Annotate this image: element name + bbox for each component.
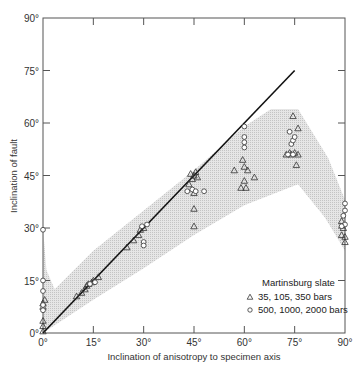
x-tick-label: 60° (237, 337, 252, 348)
x-tick-label: 0° (38, 337, 48, 348)
x-tick-label: 15° (86, 337, 101, 348)
circle-marker (248, 308, 252, 312)
y-tick-label: 90° (24, 13, 39, 24)
circle-marker (287, 129, 292, 134)
diagonal-line (43, 71, 295, 334)
circle-marker (286, 152, 291, 157)
circle-marker (141, 243, 146, 248)
circle-marker (343, 208, 348, 213)
y-tick-label: 60° (24, 118, 39, 129)
x-tick-label: 90° (337, 337, 352, 348)
circle-marker (93, 280, 98, 285)
legend-title: Martinsburg slate (262, 277, 335, 288)
circle-marker (41, 227, 46, 232)
reference-line (43, 71, 295, 334)
circle-marker (242, 145, 247, 150)
circle-marker (292, 135, 297, 140)
x-tick-label: 30° (136, 337, 151, 348)
legend-label: 500, 1000, 2000 bars (258, 304, 348, 315)
y-tick-label: 30° (24, 223, 39, 234)
x-tick-label: 75° (287, 337, 302, 348)
circle-marker (41, 289, 46, 294)
y-axis-title: Inclination of fault (8, 139, 19, 213)
circle-marker (242, 124, 247, 129)
circle-marker (41, 308, 46, 313)
circle-marker (343, 201, 348, 206)
circle-marker (341, 213, 346, 218)
circle-marker (140, 224, 145, 229)
y-tick-label: 0° (29, 328, 39, 339)
circle-marker (41, 278, 46, 283)
y-tick-label: 75° (24, 66, 39, 77)
circle-marker (88, 282, 93, 287)
y-tick-label: 45° (24, 171, 39, 182)
x-tick-label: 45° (186, 337, 201, 348)
x-axis-title: Inclination of anisotropy to specimen ax… (107, 351, 280, 362)
circle-marker (41, 303, 46, 308)
circle-marker (193, 189, 198, 194)
circle-marker (242, 140, 247, 145)
circle-marker (202, 189, 207, 194)
y-tick-label: 15° (24, 276, 39, 287)
circle-marker (145, 222, 150, 227)
legend-label: 35, 105, 350 bars (258, 291, 332, 302)
circle-marker (291, 152, 296, 157)
circle-marker (339, 224, 344, 229)
triangle-marker (247, 294, 253, 299)
chart: 0°0°15°15°30°30°45°45°60°60°75°75°90°90°… (0, 0, 361, 370)
circle-marker (185, 189, 190, 194)
legend: Martinsburg slate 35, 105, 350 bars500, … (247, 277, 348, 315)
circle-marker (242, 135, 247, 140)
